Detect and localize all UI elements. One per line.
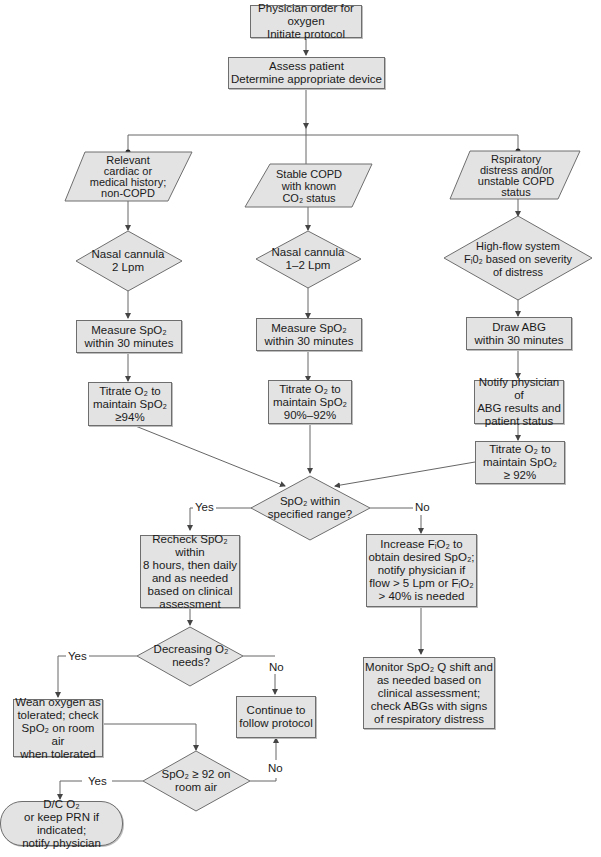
monitor-box: Monitor SpO₂ Q shift and as needed based…: [363, 657, 495, 729]
label-range-yes: Yes: [193, 501, 216, 514]
wean-box: Wean oxygen as tolerated; check SpO₂ on …: [13, 699, 103, 757]
draw-abg-box: Draw ABG within 30 minutes: [466, 317, 572, 350]
measure-mid-box: Measure SpO₂ within 30 minutes: [256, 318, 362, 351]
label-room-air-no: No: [266, 762, 285, 775]
decision-room-air: SpO₂ ≥ 92 on room air: [150, 765, 242, 797]
label-decreasing-yes: Yes: [66, 650, 89, 663]
label-range-no: No: [413, 501, 432, 514]
decision-decreasing: Decreasing O₂ needs?: [145, 640, 237, 672]
measure-left-box: Measure SpO₂ within 30 minutes: [76, 320, 182, 353]
condition-mid: Stable COPD with known CO₂ status: [250, 165, 368, 207]
assess-box: Assess patient Determine appropriate dev…: [228, 57, 385, 89]
end-terminator: D/C O₂ or keep PRN if indicated; notify …: [0, 801, 123, 846]
device-mid: Nasal cannula 1–2 Lpm: [258, 242, 358, 276]
increase-fio2-box: Increase FᵢO₂ to obtain desired SpO₂; no…: [366, 534, 477, 607]
recheck-box: Recheck SpO₂ within 8 hours, then daily …: [140, 535, 240, 608]
decision-range: SpO₂ within specified range?: [262, 491, 358, 525]
device-left: Nasal cannula 2 Lpm: [78, 244, 178, 278]
continue-box: Continue to follow protocol: [236, 696, 316, 738]
condition-right: Rspiratory distress and/or unstable COPD…: [455, 152, 577, 199]
titrate-mid-box: Titrate O₂ to maintain SpO₂ 90%–92%: [268, 380, 352, 424]
titrate-right-box: Titrate O₂ to maintain SpO₂ ≥ 92%: [475, 441, 565, 484]
device-right: High-flow system Fᵢ0₂ based on severity …: [448, 238, 588, 280]
titrate-left-box: Titrate O₂ to maintain SpO₂ ≥94%: [88, 382, 172, 426]
condition-left: Relevant cardiac or medical history; non…: [68, 153, 188, 201]
label-decreasing-no: No: [267, 661, 286, 674]
label-room-air-yes: Yes: [86, 775, 109, 788]
start-box: Physician order for oxygen Initiate prot…: [250, 5, 362, 38]
notify-physician-box: Notify physician of ABG results and pati…: [474, 380, 564, 424]
